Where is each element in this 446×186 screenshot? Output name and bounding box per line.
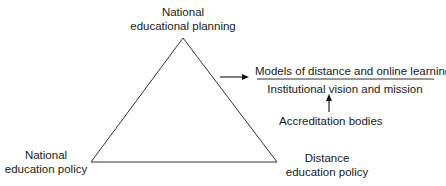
models-title: Models of distance and online learning <box>255 64 435 78</box>
label-line: National <box>123 5 243 19</box>
accreditation-bodies: Accreditation bodies <box>279 114 379 128</box>
up-arrow-icon <box>326 94 332 112</box>
label-distance-education-policy: Distance education policy <box>272 151 382 179</box>
label-line: Distance <box>272 151 382 165</box>
triangle-shape <box>91 38 277 162</box>
institutional-vision: Institutional vision and mission <box>257 82 433 96</box>
label-line: education policy <box>272 165 382 179</box>
label-national-education-policy: National education policy <box>0 148 92 176</box>
label-line: National <box>0 148 92 162</box>
label-line: education policy <box>0 162 92 176</box>
label-line: educational planning <box>123 19 243 33</box>
label-national-educational-planning: National educational planning <box>123 5 243 33</box>
right-arrow-icon <box>220 74 249 80</box>
